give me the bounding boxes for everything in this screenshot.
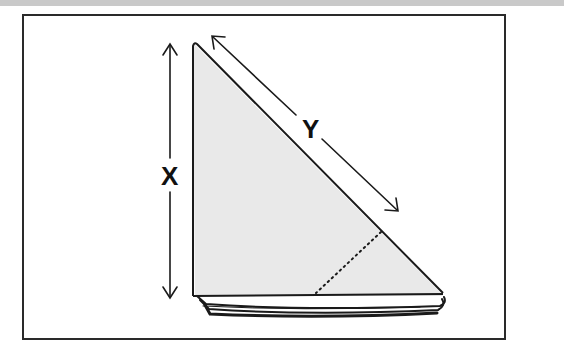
folded-base — [197, 296, 445, 316]
label-x: X — [161, 163, 178, 189]
napkin-triangle — [193, 43, 443, 296]
napkin-diagram — [0, 0, 564, 353]
label-y: Y — [302, 116, 319, 142]
